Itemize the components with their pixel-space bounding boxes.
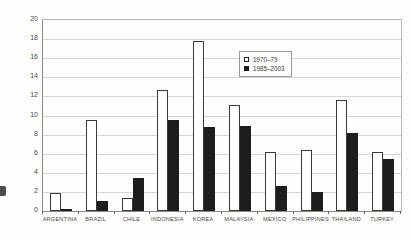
legend-swatch-open-bar [244, 57, 249, 62]
y-tick-label-0: 0 [12, 206, 38, 214]
bar-malaysia-open [229, 105, 240, 211]
x-axis-tick [78, 211, 79, 214]
x-axis-tick [364, 211, 365, 214]
gridline-y-10 [43, 116, 401, 117]
gridline-y-14 [43, 77, 401, 78]
bar-philippines-open [301, 150, 312, 211]
bar-argentina-open [50, 193, 61, 211]
y-tick-label-8: 8 [12, 130, 38, 138]
bar-thailand-open [336, 100, 347, 211]
y-tick-label-14: 14 [12, 72, 38, 80]
y-tick-label-18: 18 [12, 34, 38, 42]
x-axis-tick [293, 211, 294, 214]
bar-indonesia-filled [168, 120, 179, 211]
x-axis-tick [328, 211, 329, 214]
y-tick-label-10: 10 [12, 111, 38, 119]
bar-chile-filled [133, 178, 144, 211]
y-tick-label-20: 20 [12, 15, 38, 23]
bar-turkey-open [372, 152, 383, 211]
bar-argentina-filled [61, 209, 72, 211]
legend-item-1970-79: 1970–79 [244, 55, 285, 64]
bar-korea-open [193, 41, 204, 211]
bar-turkey-filled [383, 159, 394, 211]
legend-label-1985-2003: 1985–2003 [253, 65, 285, 72]
x-axis-tick [114, 211, 115, 214]
bar-brazil-open [86, 120, 97, 211]
legend: 1970–79 1985–2003 [239, 51, 292, 77]
x-category-label-turkey: TURKEY [354, 216, 410, 223]
bar-philippines-filled [312, 192, 323, 211]
bar-brazil-filled [97, 201, 108, 211]
bar-korea-filled [204, 127, 215, 211]
bar-mexico-open [265, 152, 276, 211]
bar-indonesia-open [157, 90, 168, 211]
gridline-y-12 [43, 96, 401, 97]
y-tick-label-6: 6 [12, 149, 38, 157]
y-tick-label-16: 16 [12, 53, 38, 61]
bar-mexico-filled [276, 186, 287, 211]
bar-chile-open [122, 198, 133, 211]
scan-artifact-mark [0, 186, 6, 196]
x-axis-tick [221, 211, 222, 214]
y-tick-label-12: 12 [12, 91, 38, 99]
x-axis-tick [400, 211, 401, 214]
plot-area: 1970–79 1985–2003 [42, 19, 402, 212]
y-tick-label-2: 2 [12, 187, 38, 195]
x-axis-tick [257, 211, 258, 214]
legend-item-1985-2003: 1985–2003 [244, 64, 285, 73]
x-axis-tick [185, 211, 186, 214]
gridline-y-16 [43, 58, 401, 59]
bar-thailand-filled [347, 133, 358, 211]
y-tick-label-4: 4 [12, 168, 38, 176]
bar-chart-figure: 1970–79 1985–2003 02468101214161820ARGEN… [0, 0, 411, 240]
legend-label-1970-79: 1970–79 [253, 56, 278, 63]
x-axis-tick [42, 211, 43, 214]
x-axis-tick [149, 211, 150, 214]
gridline-y-18 [43, 39, 401, 40]
bar-malaysia-filled [240, 126, 251, 211]
legend-swatch-filled-bar [244, 66, 249, 71]
